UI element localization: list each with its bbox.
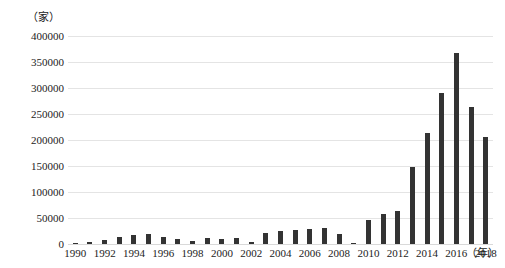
y-axis-tick-label: 350000	[4, 57, 64, 68]
x-axis-tick-label: 2006	[299, 247, 321, 260]
x-axis-tick-label: 1998	[182, 247, 204, 260]
x-axis-tick-label: 2014	[416, 247, 438, 260]
x-axis-tick-label: 1992	[94, 247, 116, 260]
bar	[395, 211, 400, 244]
x-axis-tick-label: 2010	[357, 247, 379, 260]
y-axis-tick-label: 100000	[4, 187, 64, 198]
bar	[234, 238, 239, 244]
y-axis-tick-labels: 4000003500003000002500002000001500001000…	[0, 36, 64, 244]
x-axis-unit-label: （年）	[466, 247, 499, 260]
y-axis-tick-label: 200000	[4, 135, 64, 146]
x-axis-tick-label: 1990	[64, 247, 86, 260]
bar	[161, 237, 166, 244]
x-axis-tick-label: 2008	[328, 247, 350, 260]
x-axis-tick-label: 2012	[387, 247, 409, 260]
y-axis-unit-label: （家）	[27, 8, 60, 24]
bar-chart: （家） 400000350000300000250000200000150000…	[0, 0, 505, 268]
x-axis-tick-labels: 1990199219941996199820002002200420062008…	[68, 247, 493, 263]
bar	[454, 53, 459, 244]
bar	[146, 234, 151, 244]
bar-series	[68, 36, 493, 244]
y-axis-tick-label: 50000	[4, 213, 64, 224]
bar	[425, 133, 430, 244]
bar	[73, 243, 78, 245]
y-axis-tick-label: 0	[4, 239, 64, 250]
y-axis-tick-label: 250000	[4, 109, 64, 120]
bar	[322, 228, 327, 244]
x-axis-tick-label: 2016	[445, 247, 467, 260]
bar	[439, 93, 444, 244]
bar	[117, 237, 122, 244]
bar	[293, 230, 298, 244]
plot-area	[68, 36, 493, 244]
bar	[410, 167, 415, 244]
bar	[87, 242, 92, 244]
bar	[219, 239, 224, 244]
bar	[175, 239, 180, 244]
x-axis-tick-label: 2000	[211, 247, 233, 260]
bar	[249, 242, 254, 244]
bar	[205, 238, 210, 244]
x-axis-tick-label: 2004	[270, 247, 292, 260]
x-axis-tick-label: 1996	[152, 247, 174, 260]
bar	[307, 229, 312, 244]
bar	[483, 137, 488, 244]
bar	[131, 235, 136, 244]
bar	[337, 234, 342, 244]
bar	[351, 243, 356, 245]
bar	[381, 214, 386, 244]
bar	[102, 240, 107, 244]
bar	[263, 233, 268, 244]
y-axis-tick-label: 300000	[4, 83, 64, 94]
gridline	[68, 244, 493, 245]
bar	[190, 241, 195, 244]
x-axis-tick-label: 1994	[123, 247, 145, 260]
bar	[278, 231, 283, 244]
x-axis-tick-label: 2002	[240, 247, 262, 260]
bar	[366, 220, 371, 244]
y-axis-tick-label: 150000	[4, 161, 64, 172]
y-axis-tick-label: 400000	[4, 31, 64, 42]
bar	[469, 107, 474, 244]
